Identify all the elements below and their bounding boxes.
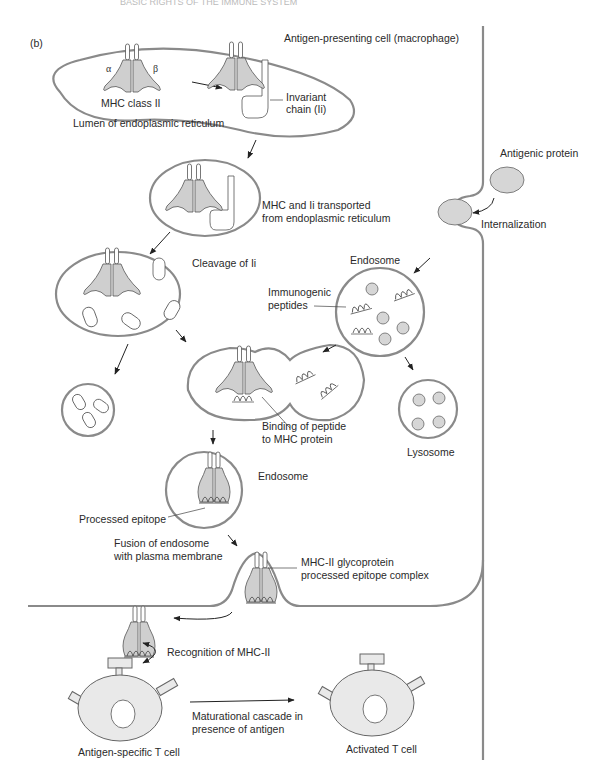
antigen-fragment: [377, 312, 389, 324]
immunogenic-label-2: peptides: [268, 299, 308, 311]
arrow-icon: [228, 535, 237, 546]
binding-label-1: Binding of peptide: [262, 420, 346, 432]
fusion-label-2: with plasma membrane: [113, 550, 223, 562]
maturation-arrow-icon: [190, 700, 294, 702]
transport-label-1: MHC and Ii transported: [262, 199, 371, 211]
arrow-icon: [150, 232, 170, 254]
cascade-label-1: Maturational cascade in: [192, 710, 303, 722]
fusing-endosome: [188, 345, 364, 420]
invariant-chain-label-2: chain (Ii): [286, 103, 326, 115]
transport-label-2: from endoplasmic reticulum: [262, 212, 391, 224]
cascade-label-2: presence of antigen: [192, 723, 284, 735]
cleavage-label: Cleavage of Ii: [192, 257, 256, 269]
antigen-fragment: [366, 283, 378, 295]
fusion-label-1: Fusion of endosome: [114, 537, 209, 549]
endosome-label-mid: Endosome: [258, 470, 308, 482]
invariant-chain-fragment: [153, 258, 165, 280]
antigen-fragment: [379, 333, 391, 345]
mhc-ii-antigen-presentation-diagram: BASIC RIGHTS OF THE IMMUNE SYSTEM (b) An…: [0, 0, 597, 782]
invariant-chain-label-1: Invariant: [286, 91, 326, 103]
degraded-fragment: [433, 416, 445, 428]
mhc-class-ii-label: MHC class II: [101, 97, 161, 109]
recognition-label: Recognition of MHC-II: [167, 646, 270, 658]
lysosome: [399, 380, 457, 438]
arrow-icon: [414, 258, 430, 273]
presented-mhc-ii-complex: [123, 606, 155, 657]
er-lumen-label: Lumen of endoplasmic reticulum: [73, 117, 224, 129]
processed-epitope-label: Processed epitope: [79, 513, 166, 525]
endosome-label-top: Endosome: [350, 254, 400, 266]
antigen-specific-t-cell: [68, 658, 177, 741]
antigen-fragment: [397, 322, 409, 334]
arrow-icon: [115, 344, 128, 374]
activated-t-cell-label: Activated T cell: [346, 743, 417, 755]
internalized-antigen: [438, 199, 472, 225]
panel-label: (b): [30, 37, 43, 49]
binding-label-2: to MHC protein: [262, 433, 333, 445]
arrow-icon: [248, 140, 256, 158]
degraded-fragment: [433, 392, 445, 404]
cell-title: Antigen-presenting cell (macrophage): [284, 32, 459, 44]
alpha-label: α: [106, 63, 112, 74]
apc-plasma-membrane: [452, 26, 483, 760]
running-header: BASIC RIGHTS OF THE IMMUNE SYSTEM: [120, 0, 297, 7]
curved-arrow-icon: [174, 612, 232, 619]
antigenic-protein: [490, 167, 524, 193]
t-cell-label: Antigen-specific T cell: [78, 746, 180, 758]
activated-t-cell: [318, 654, 424, 736]
lysosome-label: Lysosome: [407, 446, 455, 458]
degraded-fragment: [413, 394, 425, 406]
arrow-icon: [405, 357, 413, 370]
internalization-label: Internalization: [481, 218, 547, 230]
complex-label-2: processed epitope complex: [301, 569, 430, 581]
arrow-icon: [176, 330, 186, 342]
antigenic-protein-label: Antigenic protein: [500, 147, 578, 159]
curved-arrow-icon: [473, 198, 494, 213]
beta-label: β: [153, 63, 158, 74]
mhc-ii-epitope-complex: [245, 552, 277, 603]
complex-label-1: MHC-II glycoprotein: [301, 556, 394, 568]
degraded-fragment: [412, 418, 424, 430]
immunogenic-label-1: Immunogenic: [268, 286, 331, 298]
